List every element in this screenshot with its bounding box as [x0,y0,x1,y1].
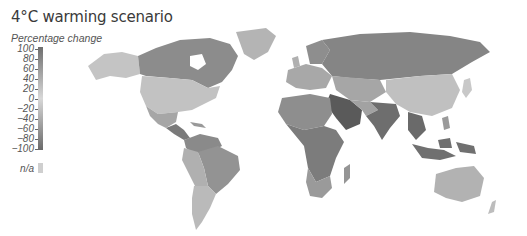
color-legend: 100 80 60 40 20 0 −20 −40 −60 −80 −100 n… [0,44,50,164]
region-australia [434,166,484,202]
region-north-africa [278,94,332,130]
world-map [60,18,527,236]
region-indonesia [412,138,476,160]
legend-tick: −100 [0,144,34,154]
region-central-africa [286,124,344,182]
region-central-america [166,124,190,140]
region-se-asia [408,112,426,140]
region-alaska [88,52,140,80]
na-label: n/a [0,163,34,174]
na-swatch [38,163,43,173]
legend-gradient-bar [38,47,43,150]
region-madagascar [344,164,350,184]
region-greenland [236,28,276,60]
region-argentina-chile [192,186,216,230]
region-russia [322,32,490,80]
region-europe [286,64,332,90]
